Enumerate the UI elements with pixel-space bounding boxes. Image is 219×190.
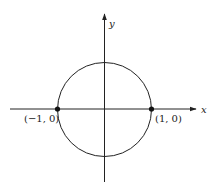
y-axis-label: y bbox=[108, 18, 115, 29]
point-neg1-0 bbox=[55, 106, 60, 111]
point-label-1-0: (1, 0) bbox=[155, 113, 182, 124]
point-label-neg1-0: (−1, 0) bbox=[24, 113, 59, 124]
x-axis-label: x bbox=[201, 104, 207, 115]
unit-circle-diagram: x y (−1, 0) (1, 0) bbox=[0, 0, 219, 190]
point-1-0 bbox=[149, 106, 154, 111]
